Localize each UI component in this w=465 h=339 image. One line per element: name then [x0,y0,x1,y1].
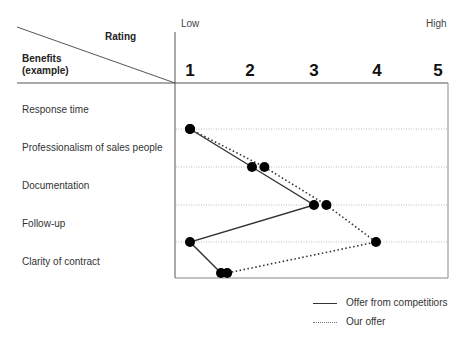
data-point-marker [259,162,269,172]
data-point-marker [247,162,257,172]
category-follow-up: Follow-up [22,218,65,229]
series-our-offer-line [190,129,376,273]
category-documentation: Documentation [22,180,89,191]
tick-1: 1 [185,61,194,81]
category-response-time: Response time [22,104,89,115]
data-point-marker [222,268,232,278]
data-point-marker [321,200,331,210]
legend-dotted-line-icon [313,322,337,323]
category-professionalism: Professionalism of sales people [22,142,163,153]
scale-high-label: High [426,18,447,29]
benefits-header-line2: (example) [22,65,69,76]
benefits-header-line1: Benefits [22,53,61,64]
scale-low-label: Low [181,18,199,29]
category-clarity-of-contract: Clarity of contract [22,256,100,267]
tick-5: 5 [433,61,442,81]
legend-solid-line-icon [313,303,337,304]
data-point-marker [309,200,319,210]
data-point-marker [371,237,381,247]
data-point-marker [185,124,195,134]
tick-3: 3 [309,61,318,81]
series-competitors-line [190,129,314,273]
legend-ours: Our offer [346,316,385,327]
chart-canvas [0,0,465,339]
rating-header: Rating [105,31,136,42]
legend-competitors: Offer from competitiors [346,297,448,308]
data-point-marker [185,237,195,247]
tick-2: 2 [245,61,254,81]
tick-4: 4 [372,61,381,81]
